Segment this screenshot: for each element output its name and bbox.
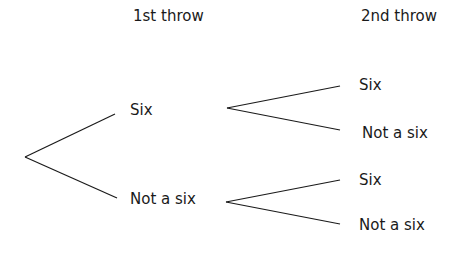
branch-not-six-six bbox=[226, 180, 340, 202]
node-not-six-not-six: Not a six bbox=[359, 216, 425, 234]
node-not-six-six: Six bbox=[359, 171, 382, 189]
tree-diagram: 1st throw 2nd throw Six Not a six Six No… bbox=[0, 0, 473, 257]
node-six-six: Six bbox=[359, 76, 382, 94]
node-first-not-six: Not a six bbox=[130, 190, 196, 208]
header-first-throw: 1st throw bbox=[133, 7, 204, 25]
node-six-not-six: Not a six bbox=[362, 124, 428, 142]
branch-root-six bbox=[25, 114, 115, 157]
header-second-throw: 2nd throw bbox=[361, 7, 437, 25]
branch-six-six bbox=[227, 86, 340, 108]
branch-six-not-six bbox=[227, 108, 340, 130]
branch-root-not-six bbox=[25, 157, 117, 198]
branch-not-six-not-six bbox=[226, 202, 340, 224]
node-first-six: Six bbox=[130, 101, 153, 119]
